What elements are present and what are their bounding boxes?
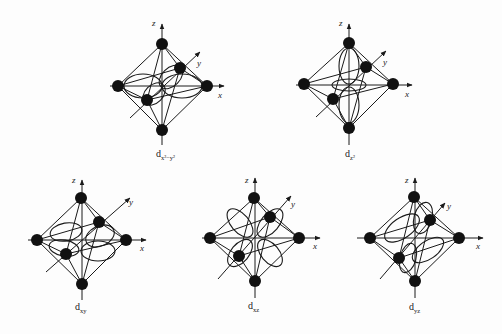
- panel-dxz: z x y: [202, 175, 320, 313]
- orbital-label-dx2-y2: dx²−y²: [156, 148, 175, 161]
- y-axis-label: y: [290, 199, 295, 209]
- d-orbital-octahedral-figure: z x y: [0, 0, 502, 334]
- x-axis-label: x: [312, 241, 317, 251]
- orbital-label-dz2: dz²: [345, 148, 355, 161]
- x-axis-label: x: [217, 90, 222, 100]
- orbital-label-dxy: dxy: [75, 301, 87, 314]
- z-axis-label: z: [71, 175, 76, 185]
- z-axis-label: z: [404, 175, 409, 185]
- y-axis-label: y: [196, 58, 201, 68]
- panel-dyz: z x y: [357, 175, 483, 314]
- orbital-label-dyz: dyz: [409, 301, 420, 314]
- x-axis-label: x: [404, 89, 409, 99]
- y-axis-label: y: [128, 197, 133, 207]
- panel-dxy: z x y: [28, 175, 146, 314]
- y-axis-label: y: [382, 57, 387, 67]
- y-axis-label: y: [446, 201, 451, 211]
- x-axis-label: x: [139, 243, 144, 253]
- x-axis-label: x: [475, 241, 480, 251]
- panel-dx2-y2: z x y: [110, 18, 224, 161]
- z-axis-label: z: [151, 18, 156, 28]
- z-axis-label: z: [244, 175, 249, 185]
- z-axis-label: z: [338, 18, 343, 28]
- panel-dz2: z x y: [296, 18, 412, 161]
- orbital-label-dxz: dxz: [248, 300, 259, 313]
